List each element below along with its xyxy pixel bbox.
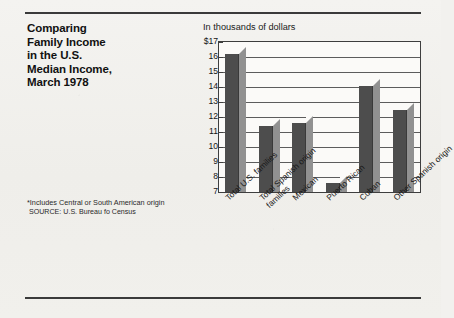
source-text: U.S. Bureau fo Census <box>61 208 136 216</box>
y-axis-tick-label: 11 <box>209 127 218 135</box>
bar-front-face <box>393 110 407 193</box>
chart-title-line-4: Median Income, <box>27 63 187 77</box>
x-axis-labels: Total U.S. familiesTotal Spanish originf… <box>199 196 439 286</box>
bar-front-face <box>359 86 373 193</box>
bar <box>359 79 380 193</box>
y-axis-tick-label: 15 <box>208 67 218 75</box>
top-divider-rule <box>25 12 421 14</box>
y-axis-tick-label: 12 <box>208 112 218 120</box>
chart-title: ComparingFamily Incomein the U.S.Median … <box>27 22 187 90</box>
y-axis-tick-mark <box>219 192 223 193</box>
y-axis-unit-label: In thousands of dollars <box>203 22 295 32</box>
bar-side-face <box>239 47 246 192</box>
y-axis-tick-label: $17 <box>204 37 218 45</box>
chart-title-line-1: Comparing <box>27 22 187 36</box>
chart-title-line-3: in the U.S. <box>27 49 187 63</box>
footnote-asterisk-note: *Includes Central or South American orig… <box>27 198 207 208</box>
y-axis: $1716151413121110987 <box>199 41 218 193</box>
y-axis-tick-label: 16 <box>208 52 218 60</box>
y-axis-tick-label: 10 <box>208 142 218 150</box>
bar-side-face <box>373 79 380 193</box>
footnote-source: SOURCE: U.S. Bureau fo Census <box>27 208 207 218</box>
footnote-block: *Includes Central or South American orig… <box>27 198 207 217</box>
chart-title-line-5: March 1978 <box>27 76 187 90</box>
y-axis-tick-label: 14 <box>208 82 218 90</box>
y-axis-tick-label: 13 <box>208 97 218 105</box>
bar <box>225 47 246 192</box>
chart-container: $1716151413121110987 <box>199 41 423 197</box>
bar-front-face <box>225 54 239 192</box>
chart-title-line-2: Family Income <box>27 36 187 50</box>
bottom-divider-rule <box>25 297 421 299</box>
source-prefix: SOURCE: <box>29 208 61 216</box>
